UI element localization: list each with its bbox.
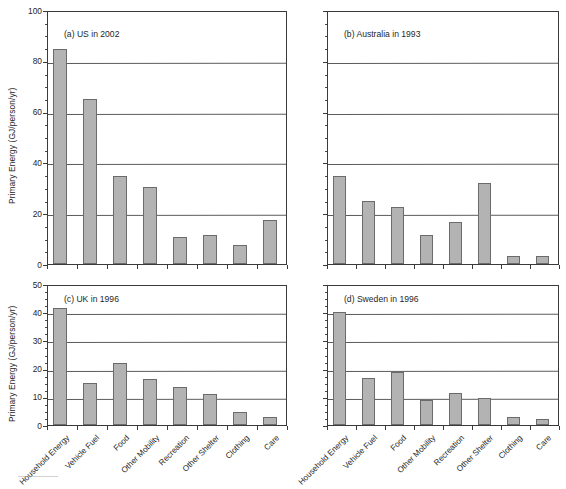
ytick-minor-d xyxy=(325,327,328,328)
ytick-minor-d xyxy=(325,384,328,385)
ytick-minor-d xyxy=(325,363,328,364)
ytick-major-d-30 xyxy=(323,341,328,342)
gridline-d-30 xyxy=(328,342,558,343)
xtick-d-3 xyxy=(414,426,415,430)
gridline-d-20 xyxy=(328,370,558,371)
bar-d-3 xyxy=(420,400,433,425)
xtick-d-5 xyxy=(472,426,473,430)
bar-d-5 xyxy=(478,398,491,425)
ytick-minor-d xyxy=(325,306,328,307)
ytick-minor-d xyxy=(325,320,328,321)
bar-d-1 xyxy=(362,378,375,425)
bar-d-0 xyxy=(333,312,346,425)
ytick-minor-d xyxy=(325,334,328,335)
xtick-d-2 xyxy=(385,426,386,430)
xtick-d-7 xyxy=(530,426,531,430)
xtick-d-8 xyxy=(559,426,560,430)
ytick-minor-d xyxy=(325,412,328,413)
ytick-minor-d xyxy=(325,391,328,392)
ytick-major-d-10 xyxy=(323,398,328,399)
ytick-minor-d xyxy=(325,348,328,349)
ytick-minor-d xyxy=(325,356,328,357)
ytick-minor-d xyxy=(325,405,328,406)
xtick-d-1 xyxy=(356,426,357,430)
scan-artifact xyxy=(18,476,58,477)
ytick-minor-d xyxy=(325,377,328,378)
ytick-minor-d xyxy=(325,419,328,420)
ytick-minor-d xyxy=(325,292,328,293)
bar-d-6 xyxy=(507,417,520,425)
ytick-major-d-50 xyxy=(323,285,328,286)
bar-d-2 xyxy=(391,372,404,425)
bar-d-7 xyxy=(536,419,549,425)
ytick-major-d-40 xyxy=(323,313,328,314)
panel-caption-d: (d) Sweden in 1996 xyxy=(344,294,419,304)
gridline-d-40 xyxy=(328,314,558,315)
plot-area-d xyxy=(327,285,559,426)
xtick-d-4 xyxy=(443,426,444,430)
xtick-d-0 xyxy=(327,426,328,430)
ytick-minor-d xyxy=(325,299,328,300)
bar-d-4 xyxy=(449,393,462,425)
xtick-d-6 xyxy=(501,426,502,430)
ytick-major-d-20 xyxy=(323,370,328,371)
